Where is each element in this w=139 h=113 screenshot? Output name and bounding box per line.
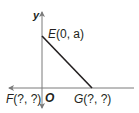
y-axis-label: y <box>33 10 39 21</box>
point-G-name: G <box>74 92 83 106</box>
point-F-coords: (?, ?) <box>13 92 41 106</box>
point-E-coords: (0, a) <box>56 27 84 41</box>
segment-EG <box>42 36 92 88</box>
point-G-label: G(?, ?) <box>74 93 111 105</box>
point-G-coords: (?, ?) <box>83 92 111 106</box>
origin-label: O <box>45 92 54 104</box>
point-F-label: F(?, ?) <box>6 93 41 105</box>
point-E-name: E <box>48 27 56 41</box>
point-E-label: E(0, a) <box>48 28 84 40</box>
